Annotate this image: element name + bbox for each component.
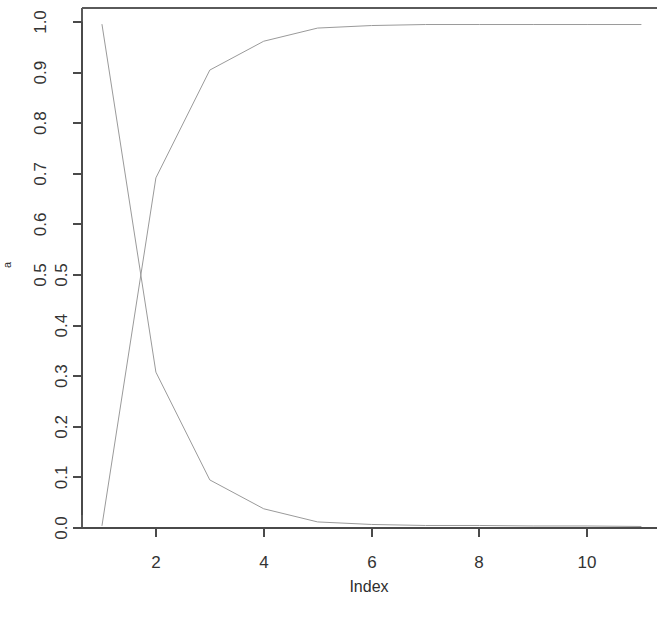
y-tick-label: 0.0	[52, 516, 71, 540]
y-tick-label: 0.8	[31, 111, 50, 135]
y-tick-label: 0.7	[31, 162, 50, 186]
x-tick-label: 10	[578, 553, 597, 572]
chart-canvas: 1.00.90.80.70.60.50.50.40.30.20.10.0 246…	[0, 0, 657, 619]
y-tick-label: 0.5	[52, 263, 71, 287]
y-tick-label: 0.6	[31, 213, 50, 237]
x-axis-title: Index	[349, 578, 388, 595]
x-tick-label: 2	[151, 553, 160, 572]
y-tick-label: 0.2	[52, 415, 71, 439]
y-axis-title: a	[1, 261, 13, 268]
y-tick-label: 0.4	[52, 314, 71, 338]
x-tick-label: 4	[259, 553, 268, 572]
y-tick-label: 1.0	[31, 10, 50, 34]
y-tick-label: 0.1	[52, 466, 71, 490]
y-tick-label: 0.9	[31, 61, 50, 85]
y-tick-label: 0.5	[31, 263, 50, 287]
y-tick-label: 0.3	[52, 364, 71, 388]
x-tick-label: 6	[367, 553, 376, 572]
plot-figure: 1.00.90.80.70.60.50.50.40.30.20.10.0 246…	[0, 0, 657, 619]
x-tick-label: 8	[474, 553, 483, 572]
